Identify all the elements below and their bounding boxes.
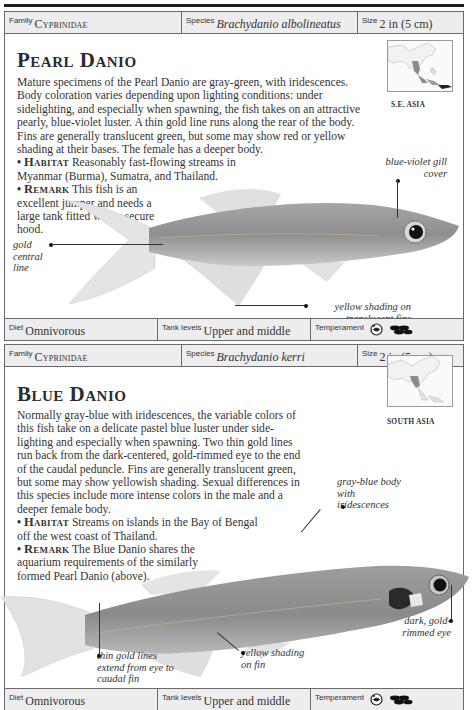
tank-levels-cell: Tank levels Upper and middle [158,689,311,710]
range-map-south-asia [387,355,453,407]
species-title: Pearl Danio [17,48,137,73]
tank-levels-value: Upper and middle [204,325,291,337]
family-cell: Family Cyprinidae [5,12,182,33]
callout-leader-line [397,180,398,218]
map-caption: SOUTH ASIA [387,417,435,426]
species-entry-blue-danio: Family Cyprinidae Species Brachydanio ke… [4,344,464,710]
diet-cell: Diet Omnivorous [5,689,158,710]
family-value: Cyprinidae [35,18,88,30]
top-rule [4,4,464,7]
species-entry-pearl-danio: Family Cyprinidae Species Brachydanio al… [4,11,464,341]
diet-label: Diet [9,323,23,332]
peaceful-fish-icon [370,693,383,706]
size-cell: Size 2 in (5 cm) [358,12,463,33]
footer-bar: Diet Omnivorous Tank levels Upper and mi… [5,688,463,710]
temperament-cell: Temperament [311,689,463,710]
callout-gold-rimmed-eye: dark, gold-rimmed eye [391,615,451,638]
callout-yellow-shading-fin: yellow shading on fin [241,647,305,670]
size-label: Size [362,16,378,25]
temperament-label: Temperament [315,693,364,702]
species-cell: Species Brachydanio albolineatus [182,12,358,33]
family-cell: Family Cyprinidae [5,345,182,366]
header-bar: Family Cyprinidae Species Brachydanio al… [5,12,463,34]
diet-value: Omnivorous [25,325,85,337]
description-text: Normally gray-blue with iridescences, th… [17,409,307,516]
size-value: 2 in (5 cm) [380,18,433,30]
species-title: Blue Danio [17,382,126,407]
callout-gray-blue-body: gray-blue body with iridescences [337,476,407,511]
school-icon [389,695,413,705]
callout-dot [449,619,453,623]
bullet-icon: • [17,156,24,169]
description-text: Mature specimens of the Pearl Danio are … [17,76,367,156]
tank-levels-value: Upper and middle [204,695,291,707]
diet-value: Omnivorous [25,695,85,707]
callout-leader-line [235,305,305,306]
temperament-label: Temperament [315,323,364,332]
species-label: Species [186,349,214,358]
family-value: Cyprinidae [35,351,88,363]
temperament-cell: Temperament [311,319,463,340]
callout-gold-central-line: gold central line [13,239,47,274]
diet-cell: Diet Omnivorous [5,319,158,340]
tank-levels-label: Tank levels [162,693,202,702]
range-map-se-asia [387,40,453,92]
habitat-label: Habitat [24,155,69,169]
family-label: Family [9,349,33,358]
callout-leader-line [53,244,163,245]
pearl-danio-illustration [59,180,469,316]
peaceful-fish-icon [370,323,383,336]
tank-levels-label: Tank levels [162,323,202,332]
callout-dot [241,651,245,655]
callout-dot [97,654,101,658]
callout-gill-cover: blue-violet gill cover [375,156,447,179]
callout-leader-line [99,603,100,654]
tank-levels-cell: Tank levels Upper and middle [158,319,311,340]
species-cell: Species Brachydanio kerri [182,345,358,366]
species-value: Brachydanio kerri [216,351,304,363]
size-label: Size [362,349,378,358]
diet-label: Diet [9,693,23,702]
blue-danio-illustration [1,525,469,685]
map-icon [388,41,452,91]
species-value: Brachydanio albolineatus [216,18,340,30]
species-label: Species [186,16,214,25]
map-caption: S.E. ASIA [391,100,425,109]
school-icon [389,325,413,335]
callout-leader-line [451,585,452,619]
bullet-icon: • [17,183,24,196]
footer-bar: Diet Omnivorous Tank levels Upper and mi… [5,318,463,340]
family-label: Family [9,16,33,25]
map-icon [388,356,452,406]
callout-dot [341,505,345,509]
callout-thin-gold-lines: thin gold lines extend from eye to cauda… [97,650,175,685]
